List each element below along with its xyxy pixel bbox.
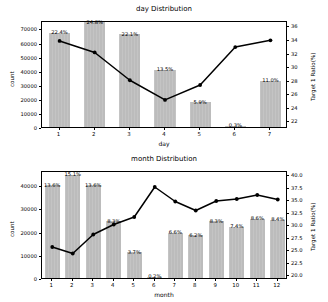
chart-panel-month: month Distribution 13.6%15.1%13.6%8.3%3.… xyxy=(0,151,328,302)
y2-axis-tick-mark xyxy=(287,263,289,264)
bar xyxy=(209,221,224,278)
x-axis-tick-mark xyxy=(92,279,93,281)
y2-axis-tick-label: 25.0 xyxy=(291,247,303,253)
y2-axis-tick-mark xyxy=(287,26,289,27)
y2-axis-tick-mark xyxy=(287,54,289,55)
y2-axis-tick-mark xyxy=(287,40,289,41)
bar xyxy=(229,227,244,278)
x-axis-title: month xyxy=(0,291,328,298)
bar xyxy=(49,33,70,127)
bar-value-label: 22.1% xyxy=(122,31,138,37)
y2-axis-tick-mark xyxy=(287,200,289,201)
y-axis-tick-mark xyxy=(39,256,41,257)
y-axis-tick-mark xyxy=(39,128,41,129)
x-axis-tick-label: 1 xyxy=(50,282,53,288)
y2-axis-tick-mark xyxy=(287,238,289,239)
y2-axis-tick-mark xyxy=(287,121,289,122)
bar-value-label: 8.3% xyxy=(107,218,120,224)
x-axis-tick-label: 1 xyxy=(57,131,60,137)
bar-value-label: 0.3% xyxy=(229,122,242,128)
x-axis-tick-mark xyxy=(164,128,165,130)
x-axis-title: day xyxy=(0,140,328,147)
y-axis-tick-mark xyxy=(39,279,41,280)
bar-value-label: 8.3% xyxy=(210,218,223,224)
x-axis-tick-label: 5 xyxy=(132,282,135,288)
y-axis-tick-label: 0 xyxy=(6,125,37,131)
bar-value-label: 15.1% xyxy=(65,171,81,177)
bar-group: 13.6%15.1%13.6%8.3%3.7%0.2%6.6%6.2%8.3%7… xyxy=(42,172,286,278)
x-axis-tick-label: 6 xyxy=(233,131,236,137)
x-axis-tick-label: 4 xyxy=(111,282,114,288)
x-axis-tick-mark xyxy=(199,128,200,130)
bar-value-label: 3.7% xyxy=(128,249,141,255)
y2-axis-tick-label: 36 xyxy=(291,23,298,29)
bar xyxy=(65,175,80,278)
y2-axis-tick-label: 32.5 xyxy=(291,210,303,216)
bar xyxy=(119,34,140,127)
y2-axis-tick-label: 24 xyxy=(291,105,298,111)
y-axis-tick-label: 0 xyxy=(6,276,37,282)
y2-axis-tick-label: 30.0 xyxy=(291,222,303,228)
y-axis-tick-mark xyxy=(39,233,41,234)
chart-panel-day: day Distribution 22.4%24.8%22.1%13.5%5.9… xyxy=(0,0,328,151)
x-axis-tick-mark xyxy=(236,279,237,281)
y2-axis-tick-label: 32 xyxy=(291,51,298,57)
x-axis-tick-mark xyxy=(195,279,196,281)
y2-axis-tick-mark xyxy=(287,225,289,226)
x-axis-tick-mark xyxy=(256,279,257,281)
bar-value-label: 13.6% xyxy=(44,182,60,188)
bar-value-label: 8.4% xyxy=(271,216,284,222)
x-axis-tick-label: 5 xyxy=(197,131,200,137)
y2-axis-tick-label: 35.0 xyxy=(291,197,303,203)
y-axis-tick-label: 40000 xyxy=(6,183,37,189)
bar-value-label: 7.4% xyxy=(230,223,243,229)
x-axis-tick-mark xyxy=(129,128,130,130)
plot-area-month: 13.6%15.1%13.6%8.3%3.7%0.2%6.6%6.2%8.3%7… xyxy=(41,171,287,279)
x-axis-tick-label: 3 xyxy=(127,131,130,137)
bar-value-label: 0.2% xyxy=(148,273,161,279)
y-axis-tick-mark xyxy=(39,100,41,101)
bar-value-label: 13.5% xyxy=(157,66,173,72)
x-axis-tick-label: 12 xyxy=(273,282,280,288)
x-axis-tick-label: 7 xyxy=(268,131,271,137)
y2-axis-tick-mark xyxy=(287,188,289,189)
y2-axis-tick-mark xyxy=(287,67,289,68)
x-axis-tick-mark xyxy=(174,279,175,281)
y2-axis-title: Target 1 Ratio(%) xyxy=(310,203,316,251)
y-axis-tick-label: 70000 xyxy=(6,26,37,32)
y2-axis-tick-mark xyxy=(287,108,289,109)
y-axis-tick-label: 60000 xyxy=(6,41,37,47)
bar-value-label: 24.8% xyxy=(86,19,102,25)
x-axis-tick-mark xyxy=(154,279,155,281)
x-axis-tick-label: 4 xyxy=(162,131,165,137)
x-axis-tick-mark xyxy=(59,128,60,130)
bar xyxy=(86,185,101,278)
bar xyxy=(250,219,265,278)
x-axis-tick-label: 6 xyxy=(152,282,155,288)
y-axis-tick-label: 30000 xyxy=(6,206,37,212)
y-axis-tick-mark xyxy=(39,114,41,115)
plot-area-day: 22.4%24.8%22.1%13.5%5.9%0.3%11.0% xyxy=(41,21,287,128)
x-axis-tick-mark xyxy=(133,279,134,281)
y2-axis-tick-label: 40.0 xyxy=(291,172,303,178)
x-axis-tick-mark xyxy=(113,279,114,281)
bar xyxy=(168,233,183,278)
bar-value-label: 6.6% xyxy=(169,229,182,235)
chart-title-day: day Distribution xyxy=(0,5,328,13)
x-axis-tick-mark xyxy=(234,128,235,130)
y-axis-tick-label: 50000 xyxy=(6,55,37,61)
x-axis-tick-label: 11 xyxy=(253,282,260,288)
y2-axis-tick-label: 30 xyxy=(291,64,298,70)
y2-axis-tick-label: 27.5 xyxy=(291,235,303,241)
x-axis-tick-label: 9 xyxy=(214,282,217,288)
bar xyxy=(190,102,211,127)
y-axis-tick-mark xyxy=(39,86,41,87)
bar-group: 22.4%24.8%22.1%13.5%5.9%0.3%11.0% xyxy=(42,22,286,127)
bar xyxy=(127,252,142,278)
y-axis-tick-label: 20000 xyxy=(6,97,37,103)
bar xyxy=(84,22,105,127)
x-axis-tick-mark xyxy=(269,128,270,130)
y2-axis-tick-mark xyxy=(287,81,289,82)
y2-axis-tick-label: 28 xyxy=(291,78,298,84)
x-axis-tick-label: 10 xyxy=(232,282,239,288)
